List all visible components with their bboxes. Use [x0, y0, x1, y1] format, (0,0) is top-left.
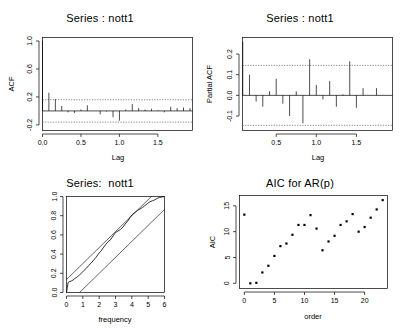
- pacf-y-tick-label: 0.0: [227, 90, 234, 100]
- aic-point: [321, 249, 323, 251]
- cpgram-x-tick-label: 6: [163, 301, 167, 308]
- aic-point: [297, 224, 299, 226]
- cpgram-panel: Series: nott1 01234560.00.20.40.60.81.0 …: [0, 167, 200, 334]
- acf-plot-svg: 0.00.51.01.5-0.20.20.61.0 Lag ACF: [0, 0, 200, 167]
- cpgram-plot-area: [67, 197, 165, 293]
- aic-point: [273, 255, 275, 257]
- aic-plot-area: [240, 196, 388, 289]
- aic-point: [358, 231, 360, 233]
- acf-y-tick-label: -0.2: [27, 119, 34, 131]
- aic-x-tick-label: 10: [301, 297, 309, 304]
- aic-point: [279, 245, 281, 247]
- pacf-x-tick-label: 1.5: [352, 139, 362, 146]
- pacf-panel: Series : nott1 0.51.01.5-0.10.00.10.2 La…: [200, 0, 400, 167]
- pacf-plot-box: [243, 38, 393, 131]
- acf-x-tick-label: 0.5: [76, 139, 86, 146]
- aic-point: [345, 220, 347, 222]
- acf-xlabel: Lag: [112, 153, 125, 162]
- aic-plot-svg: 05101520051015 order AIC: [200, 167, 400, 334]
- aic-point: [249, 282, 251, 284]
- acf-y-tick-label: 0.6: [27, 64, 34, 74]
- aic-point: [327, 240, 329, 242]
- acf-ylabel: ACF: [7, 76, 16, 91]
- acf-plot-box: [43, 38, 193, 131]
- pacf-y-tick-label: 0.1: [227, 70, 234, 80]
- acf-x-tick-label: 0.0: [38, 139, 48, 146]
- cpgram-y-tick-label: 0.4: [51, 249, 58, 259]
- aic-y-tick-label: 10: [224, 228, 231, 236]
- acf-panel: Series : nott1 0.00.51.01.5-0.20.20.61.0…: [0, 0, 200, 167]
- aic-x-tick-label: 20: [361, 297, 369, 304]
- cpgram-x-tick-label: 3: [114, 301, 118, 308]
- aic-point: [285, 242, 287, 244]
- pacf-x-tick-label: 1.0: [311, 139, 321, 146]
- aic-plot-box: [240, 196, 388, 289]
- aic-point: [309, 214, 311, 216]
- acf-x-tick-label: 1.0: [115, 139, 125, 146]
- cpgram-series-0: [67, 197, 165, 293]
- aic-x-tick-label: 0: [242, 297, 246, 304]
- aic-point: [303, 224, 305, 226]
- pacf-y-tick-label: 0.2: [227, 49, 234, 59]
- aic-point: [364, 226, 366, 228]
- aic-point: [267, 265, 269, 267]
- cpgram-y-tick-label: 0.2: [51, 268, 58, 278]
- cpgram-y-tick-label: 0.0: [51, 288, 58, 298]
- aic-y-tick-label: 15: [224, 202, 231, 210]
- acf-x-tick-label: 1.5: [153, 139, 163, 146]
- pacf-ylabel: Partial ACF: [205, 65, 214, 103]
- cpgram-y-tick-label: 0.6: [51, 230, 58, 240]
- pacf-xlabel: Lag: [312, 153, 325, 162]
- aic-point: [255, 282, 257, 284]
- cpgram-plot-box: [67, 197, 165, 293]
- acf-y-tick-label: 1.0: [27, 36, 34, 46]
- aic-point: [352, 213, 354, 215]
- aic-ylabel: AIC: [208, 235, 217, 248]
- cpgram-series-1: [67, 197, 152, 280]
- cpgram-y-tick-label: 0.8: [51, 211, 58, 221]
- cpgram-x-tick-label: 2: [97, 301, 101, 308]
- r-diagnostic-figure: Series : nott1 0.00.51.01.5-0.20.20.61.0…: [0, 0, 400, 334]
- cpgram-series-2: [80, 209, 165, 292]
- aic-point: [382, 199, 384, 201]
- aic-point: [291, 234, 293, 236]
- aic-panel: AIC for AR(p) 05101520051015 order AIC: [200, 167, 400, 334]
- cpgram-plot-svg: 01234560.00.20.40.60.81.0 frequency: [0, 167, 200, 334]
- cpgram-x-tick-label: 5: [146, 301, 150, 308]
- aic-point: [333, 235, 335, 237]
- aic-point: [370, 217, 372, 219]
- pacf-plot-svg: 0.51.01.5-0.10.00.10.2 Lag Partial ACF: [200, 0, 400, 167]
- cpgram-x-tick-label: 4: [130, 301, 134, 308]
- cpgram-x-tick-label: 1: [81, 301, 85, 308]
- aic-y-tick-label: 0: [224, 281, 231, 285]
- pacf-y-tick-label: -0.1: [227, 110, 234, 122]
- aic-x-tick-label: 5: [272, 297, 276, 304]
- aic-point: [243, 214, 245, 216]
- aic-xlabel: order: [304, 312, 322, 321]
- pacf-x-tick-label: 0.5: [271, 139, 281, 146]
- cpgram-y-tick-label: 1.0: [51, 192, 58, 202]
- acf-y-tick-label: 0.2: [27, 92, 34, 102]
- pacf-plot-area: [243, 38, 393, 131]
- aic-y-tick-label: 5: [224, 255, 231, 259]
- aic-point: [376, 208, 378, 210]
- aic-point: [261, 271, 263, 273]
- cpgram-xlabel: frequency: [99, 315, 132, 324]
- aic-point: [339, 224, 341, 226]
- cpgram-x-tick-label: 0: [65, 301, 69, 308]
- aic-point: [315, 227, 317, 229]
- aic-x-tick-label: 15: [331, 297, 339, 304]
- acf-plot-area: [43, 38, 193, 131]
